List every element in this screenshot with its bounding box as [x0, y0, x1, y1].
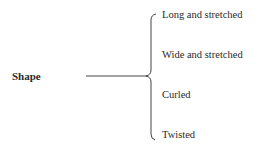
curly-brace: [146, 14, 156, 140]
branch-wide-and-stretched: Wide and stretched: [162, 49, 243, 60]
brace-connector: [0, 0, 262, 146]
branch-long-and-stretched: Long and stretched: [162, 9, 242, 20]
branch-curled: Curled: [162, 89, 191, 100]
branch-twisted: Twisted: [162, 129, 195, 140]
